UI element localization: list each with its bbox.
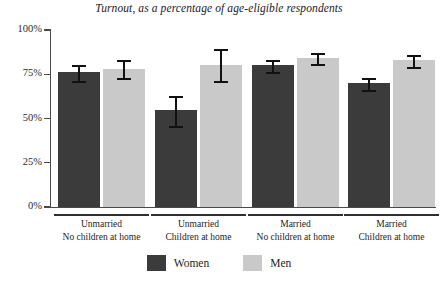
error-bar-cap-upper [362,78,376,80]
error-bar-men-group-4 [393,55,435,207]
legend-swatch-men-icon [243,255,262,271]
error-bar-cap-upper [311,53,325,55]
group-label-line-1: Married [376,219,407,229]
y-tick-label: 75% [0,67,42,78]
group-label-line-1: Married [280,219,311,229]
error-bar-cap-upper [117,60,131,62]
group-separator-rule [54,214,149,216]
y-tick-label: 100% [0,23,42,34]
error-bar-cap-lower [407,67,421,69]
error-bar-cap-upper [214,49,228,51]
error-bar-women-group-2 [155,96,197,208]
error-bar-women-group-4 [348,78,390,207]
x-axis-group-label-4: MarriedChildren at home [330,218,443,244]
error-bar-cap-lower [169,126,183,128]
error-bar-stem [123,60,125,78]
error-bar-men-group-3 [297,53,339,207]
error-bar-cap-upper [407,55,421,57]
error-bar-men-group-1 [103,60,145,207]
legend-swatch-women-icon [147,255,166,271]
y-tick-label: 50% [0,112,42,123]
x-axis-line [50,207,436,208]
error-bar-cap-upper [169,96,183,98]
y-tick-mark [44,29,51,30]
error-bar-stem [175,96,177,126]
legend-label-women: Women [174,257,209,269]
error-bar-cap-upper [266,60,280,62]
error-bar-cap-lower [362,90,376,92]
chart-title: Turnout, as a percentage of age-eligible… [0,2,438,14]
group-separator-rule [151,214,246,216]
error-bar-cap-lower [266,72,280,74]
y-tick-label: 0% [0,200,42,211]
error-bar-cap-lower [311,64,325,66]
legend-item-women[interactable]: Women [147,255,209,271]
group-label-line-1: Unmarried [81,219,122,229]
error-bar-cap-lower [117,78,131,80]
group-separator-rule [248,214,343,216]
error-bar-stem [220,49,222,81]
y-tick-mark [44,206,51,207]
chart-legend: Women Men [0,255,438,271]
y-tick-mark [44,74,51,75]
error-bar-men-group-2 [200,49,242,207]
y-tick-mark [44,118,51,119]
error-bar-cap-lower [72,81,86,83]
group-separator-rule [344,214,439,216]
error-bar-women-group-1 [58,65,100,207]
error-bar-stem [78,65,80,81]
error-bar-cap-lower [214,81,228,83]
group-label-line-2: Children at home [330,231,443,244]
y-tick-label: 25% [0,156,42,167]
group-label-line-1: Unmarried [178,219,219,229]
y-tick-mark [44,162,51,163]
error-bar-cap-upper [72,65,86,67]
legend-item-men[interactable]: Men [243,255,291,271]
legend-label-men: Men [270,257,291,269]
error-bar-women-group-3 [252,60,294,207]
